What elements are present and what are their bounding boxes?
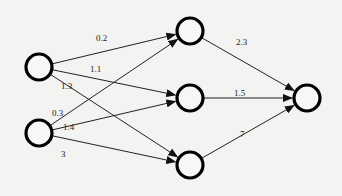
hidden-node-h2: [177, 85, 203, 111]
hidden-node-h3: [177, 152, 203, 178]
edge-weight-label: 0.2: [96, 33, 107, 43]
input-node-i2: [26, 120, 52, 146]
edge-labels-group: 0.21.11.30.31.432.31.57: [52, 33, 248, 159]
edge-weight-label: 3: [61, 149, 66, 159]
edge-weight-label: 1.3: [61, 81, 73, 91]
edge-weight-label: 1.4: [63, 122, 75, 132]
edge-weight-label: 7: [240, 129, 245, 139]
edge-arrow-i1-h1: [53, 34, 176, 63]
edge-arrow-h1-o1: [202, 38, 294, 91]
edge-weight-label: 1.5: [234, 88, 246, 98]
input-node-i1: [26, 54, 52, 80]
edge-weight-label: 2.3: [236, 37, 248, 47]
edges-group: [51, 34, 294, 161]
hidden-node-h1: [177, 18, 203, 44]
output-node-o1: [294, 85, 320, 111]
edge-weight-label: 1.1: [90, 64, 101, 74]
edge-arrow-i2-h3: [53, 136, 176, 162]
edge-arrow-h3-o1: [202, 105, 294, 158]
edge-weight-label: 0.3: [52, 108, 64, 118]
neural-network-diagram: 0.21.11.30.31.432.31.57: [0, 0, 342, 196]
